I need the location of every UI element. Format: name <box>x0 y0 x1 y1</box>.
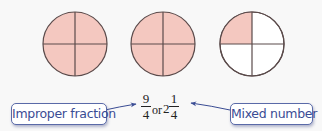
label-mixed-number: Mixed number <box>230 103 313 125</box>
label-improper-fraction: Improper fraction <box>11 103 107 125</box>
circle-whole-1 <box>43 12 107 76</box>
improper-numerator: 9 <box>141 92 151 105</box>
circle-quarter <box>220 12 284 76</box>
improper-fraction: 9 4 <box>141 92 151 121</box>
improper-denominator: 4 <box>141 108 151 121</box>
mixed-denominator: 4 <box>169 108 179 121</box>
mixed-fraction: 1 4 <box>169 92 179 121</box>
arrow-right-icon <box>191 103 230 110</box>
connector-text: or <box>152 104 162 116</box>
circle-whole-2 <box>131 12 195 76</box>
mixed-numerator: 1 <box>169 92 179 105</box>
